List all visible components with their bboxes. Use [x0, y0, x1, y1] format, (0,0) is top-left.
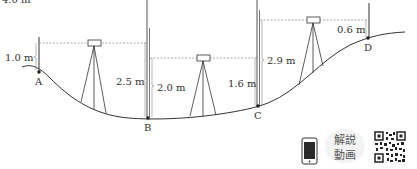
tripod-3-leg-right: [313, 23, 323, 66]
label-c-foresight: 1.6 m: [228, 78, 257, 89]
smartphone-icon: [302, 138, 317, 164]
bracket-a: [34, 43, 36, 70]
tripod-1-leg-right: [94, 46, 106, 113]
point-b-label: B: [144, 122, 151, 133]
label-b-backsight: 2.0 m: [157, 82, 186, 93]
bracket-c-backsight: [262, 20, 264, 105]
tripod-2-leg-left: [190, 61, 203, 116]
point-c-label: C: [254, 110, 262, 121]
video-badge-line2: 動画: [334, 148, 356, 162]
label-b-foresight: 2.5 m: [116, 76, 145, 87]
tripod-3-leg-left: [299, 23, 313, 85]
level-instrument-3: [307, 17, 320, 23]
bracket-b-backsight: [152, 58, 154, 117]
label-d-foresight: 0.6 m: [337, 24, 366, 35]
video-badge[interactable]: 解説 動画: [302, 129, 406, 164]
leveling-survey-diagram: 4.0 m 1.0 m A 2.5 m 2.0 m B 1.6 m 2.9 m: [0, 0, 417, 169]
tripod-2-leg-right: [203, 61, 216, 115]
point-b-marker: [146, 116, 150, 120]
label-a-backsight: 1.0 m: [5, 52, 34, 63]
level-instrument-1: [88, 40, 101, 46]
point-a-marker: [37, 70, 41, 74]
tripod-1-leg-left: [81, 46, 94, 102]
label-c-backsight: 2.9 m: [267, 55, 296, 66]
video-badge-line1: 解説: [334, 133, 356, 147]
point-d-label: D: [364, 42, 372, 53]
qr-code-icon[interactable]: [374, 131, 406, 163]
point-c-marker: [256, 104, 260, 108]
point-a-label: A: [34, 76, 43, 87]
cut-off-label: 4.0 m: [2, 0, 31, 5]
point-d-marker: [366, 36, 370, 40]
level-instrument-2: [197, 55, 210, 61]
